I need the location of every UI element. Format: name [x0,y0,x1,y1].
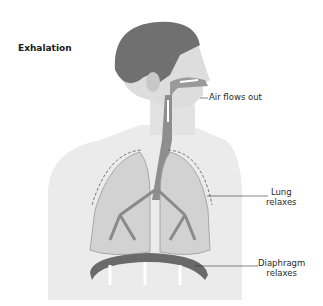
label-diaphragm-line1: Diaphragm [258,258,305,268]
ear [146,72,160,92]
label-diaphragm-relaxes: Diaphragm relaxes [258,258,305,278]
label-air-flows-out: Air flows out [209,92,262,102]
label-lung-line2: relaxes [266,197,297,207]
label-lung-line1: Lung [266,187,297,197]
label-lung-relaxes: Lung relaxes [266,187,297,207]
label-diaphragm-line2: relaxes [258,268,305,278]
diagram-title: Exhalation [18,43,72,53]
